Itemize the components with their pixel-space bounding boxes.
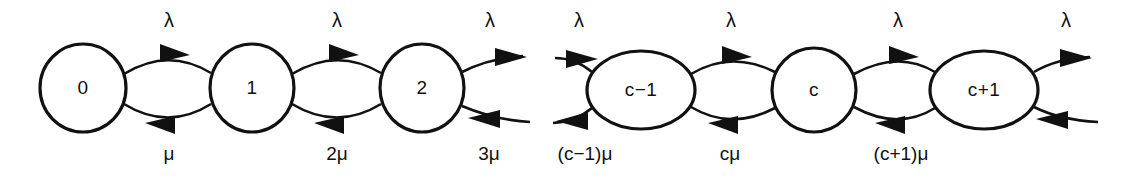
node-2-label: 2 xyxy=(417,77,428,98)
node-c-minus-1[interactable]: c−1 xyxy=(587,51,695,129)
arrowhead-cplus1-outgoing xyxy=(1060,49,1092,67)
node-c-label: c xyxy=(809,79,819,100)
edge-1-to-0-curve xyxy=(124,104,211,118)
transition-2-outgoing xyxy=(462,48,527,72)
edge-1-to-2-curve xyxy=(292,60,381,74)
node-0-label: 0 xyxy=(78,77,89,98)
node-c-minus-1-label: c−1 xyxy=(625,79,657,100)
service-rate-label-1: μ xyxy=(164,143,175,164)
transition-c-to-cplus1 xyxy=(854,46,935,74)
node-0[interactable]: 0 xyxy=(40,44,126,132)
service-rate-label-4: (c−1)μ xyxy=(558,143,613,164)
arrowhead-2-to-1 xyxy=(314,116,344,134)
transition-cplus1-to-c xyxy=(854,107,935,134)
service-rate-label-5: cμ xyxy=(720,143,740,164)
node-c-plus-1[interactable]: c+1 xyxy=(930,51,1038,129)
arrival-rate-label-1: λ xyxy=(164,9,174,31)
service-rate-label-3: 3μ xyxy=(478,143,500,164)
arrival-rate-label-3: λ xyxy=(485,9,495,31)
node-1-label: 1 xyxy=(247,77,258,98)
diagram-canvas: 0 1 2 c−1 c c+1 λ λ λ λ λ λ λ xyxy=(0,0,1132,179)
transition-into-cminus1-from-left xyxy=(555,50,598,72)
arrival-rate-label-4: λ xyxy=(574,9,584,31)
node-c-plus-1-label: c+1 xyxy=(968,79,1000,100)
transition-c-to-cminus1 xyxy=(691,107,775,134)
transition-2-to-1 xyxy=(292,104,381,134)
edge-2-to-1-curve xyxy=(292,104,381,118)
transition-cminus1-to-c xyxy=(691,46,775,74)
edge-0-to-1-curve xyxy=(124,60,211,74)
transition-cplus1-outgoing xyxy=(1034,49,1092,72)
arrival-rate-label-7: λ xyxy=(1061,9,1071,31)
service-rate-label-2: 2μ xyxy=(326,143,348,164)
node-c[interactable]: c xyxy=(772,48,856,132)
transition-1-to-2 xyxy=(292,44,381,74)
arrival-rate-label-6: λ xyxy=(893,9,903,31)
transition-into-2-from-right xyxy=(462,106,530,128)
transition-0-to-1 xyxy=(124,44,211,74)
arrowhead-1-to-0 xyxy=(145,116,175,134)
arrowhead-2-outgoing xyxy=(495,48,527,66)
arrival-rate-label-2: λ xyxy=(332,9,342,31)
edge-c-to-cplus1-curve xyxy=(854,61,935,74)
arrowhead-cminus1-outgoing xyxy=(556,112,588,130)
transition-1-to-0 xyxy=(124,104,211,134)
service-rate-label-6: (c+1)μ xyxy=(874,143,929,164)
transition-into-cplus1-from-right xyxy=(1034,107,1098,129)
state-transition-diagram: 0 1 2 c−1 c c+1 λ λ λ λ λ λ λ xyxy=(0,0,1132,179)
edge-cplus1-to-c-curve xyxy=(854,107,935,119)
transition-cminus1-outgoing-left xyxy=(553,108,592,130)
arrival-rate-label-5: λ xyxy=(726,9,736,31)
node-1[interactable]: 1 xyxy=(210,44,294,132)
node-2[interactable]: 2 xyxy=(380,44,464,132)
edge-cminus1-to-c-curve xyxy=(691,61,775,74)
